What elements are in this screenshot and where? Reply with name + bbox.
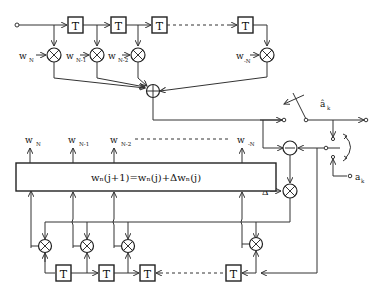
delay-box: T xyxy=(99,265,114,281)
svg-text:-N: -N xyxy=(248,141,255,147)
multiply-icon xyxy=(39,240,52,253)
svg-text:k: k xyxy=(327,105,331,111)
svg-text:T: T xyxy=(60,268,68,281)
weight-label-bottom: w -N xyxy=(237,135,255,147)
svg-text:N-1: N-1 xyxy=(79,141,89,147)
delay-box: T xyxy=(152,17,167,33)
svg-text:T: T xyxy=(144,268,152,281)
sum-icon xyxy=(147,85,160,98)
input-terminal xyxy=(15,23,19,27)
weight-label-top: w -N xyxy=(236,51,251,64)
multiply-icon xyxy=(47,48,61,62)
sampler-arrow xyxy=(284,95,304,104)
multiply-icon xyxy=(260,48,274,62)
multiply-icon xyxy=(122,240,135,253)
multiply-icon xyxy=(131,48,145,62)
svg-text:N-2: N-2 xyxy=(118,57,128,63)
svg-text:T: T xyxy=(115,20,123,33)
multiply-icon xyxy=(81,240,94,253)
output-terminal xyxy=(364,118,368,122)
training-input-label: a k xyxy=(355,172,365,184)
svg-text:w: w xyxy=(237,135,245,145)
svg-text:â: â xyxy=(320,99,326,109)
delay-box: T xyxy=(238,17,253,33)
svg-text:T: T xyxy=(242,20,250,33)
svg-text:T: T xyxy=(230,268,238,281)
svg-text:T: T xyxy=(156,20,164,33)
top-filter: T T T T xyxy=(15,17,283,120)
delay-box: T xyxy=(140,265,155,281)
delay-box: T xyxy=(226,265,241,281)
mode-switch-terminal[interactable] xyxy=(324,146,328,150)
svg-text:k: k xyxy=(361,178,365,184)
weight-label-bottom: w N-2 xyxy=(110,135,131,147)
svg-text:w: w xyxy=(66,51,74,61)
bottom-filter: T T T T xyxy=(31,222,263,281)
svg-text:N: N xyxy=(29,57,34,63)
svg-text:w: w xyxy=(108,51,116,61)
svg-text:w: w xyxy=(236,51,244,61)
update-equation: wₙ(j+1)=wₙ(j)+Δwₙ(j) xyxy=(91,172,201,183)
equalizer-diagram: T T T T xyxy=(0,0,385,298)
delay-box: T xyxy=(68,17,83,33)
multiply-icon xyxy=(250,238,263,251)
weight-label-top: w N xyxy=(19,51,34,63)
svg-text:-N: -N xyxy=(244,58,251,64)
multiply-icon xyxy=(90,48,104,62)
svg-text:w: w xyxy=(19,51,27,61)
training-input-terminal xyxy=(348,174,352,178)
svg-text:T: T xyxy=(103,268,111,281)
weight-label-bottom: w N xyxy=(25,135,41,147)
delay-box: T xyxy=(111,17,126,33)
svg-text:N-1: N-1 xyxy=(76,57,86,63)
update-block: wₙ(j+1)=wₙ(j)+Δwₙ(j) w N w N-1 w N-2 w -… xyxy=(16,135,276,248)
delay-box: T xyxy=(56,265,71,281)
decision-output-label: â k xyxy=(320,99,331,111)
weight-label-bottom: w N-1 xyxy=(68,135,89,147)
switch-terminal xyxy=(282,118,286,122)
svg-text:w: w xyxy=(25,135,33,145)
svg-text:N-2: N-2 xyxy=(121,141,131,147)
weight-label-top: w N-1 xyxy=(66,51,86,63)
subtract-icon xyxy=(283,141,297,155)
svg-text:N: N xyxy=(36,141,41,147)
svg-text:w: w xyxy=(110,135,118,145)
weight-label-top: w N-2 xyxy=(108,51,128,63)
svg-text:w: w xyxy=(68,135,76,145)
svg-text:T: T xyxy=(72,20,80,33)
switch-toggle-arrow xyxy=(345,136,351,159)
multiply-icon xyxy=(283,184,297,198)
